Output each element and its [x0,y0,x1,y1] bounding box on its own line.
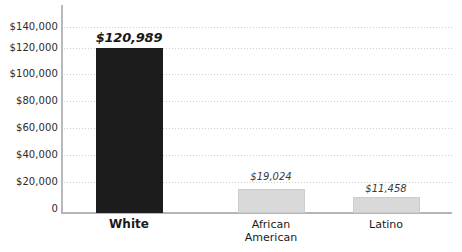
bar-chart: $140,000 $120,000 $100,000 $80,000 $60,0… [0,0,462,252]
y-tick-label: $40,000 [2,149,58,160]
y-tick-label: $80,000 [2,95,58,106]
category-label-white: White [76,218,182,231]
category-label-line: American [218,231,324,244]
y-tick-label: $120,000 [2,42,58,53]
bar-white [96,48,163,213]
y-tick-label: $60,000 [2,122,58,133]
y-tick-label: $140,000 [2,21,58,32]
bar-latino [353,197,420,213]
category-label-african-american: African American [218,218,324,244]
bar-african-american [238,189,305,213]
value-label-latino: $11,458 [336,183,436,194]
y-tick-label: $100,000 [2,68,58,79]
category-label-line: African [218,218,324,231]
value-label-african-american: $19,024 [221,171,321,182]
y-tick-label: $20,000 [2,176,58,187]
y-axis-labels: $140,000 $120,000 $100,000 $80,000 $60,0… [0,0,58,252]
category-label-latino: Latino [333,218,439,231]
value-label-white: $120,989 [78,30,180,45]
y-tick-label: 0 [2,203,58,214]
